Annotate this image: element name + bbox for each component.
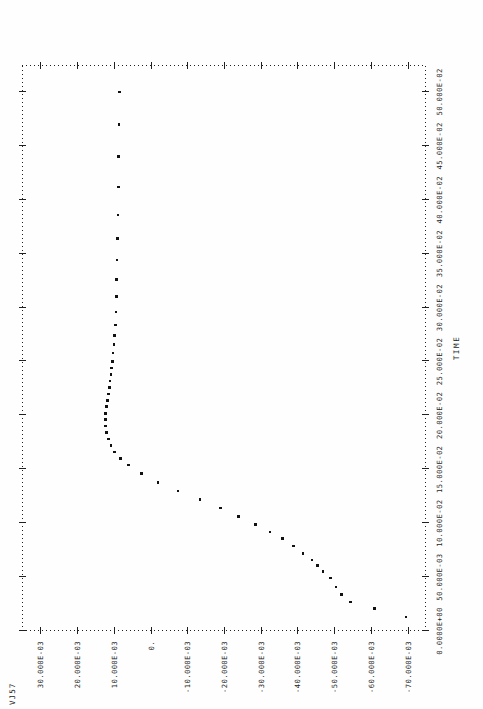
data-point [113, 343, 116, 346]
data-point [112, 352, 115, 355]
data-point [140, 472, 143, 475]
y-tick-label: -60.000E-03 [366, 641, 375, 709]
data-point [117, 214, 120, 217]
data-point [316, 564, 319, 567]
y-tick-label: -30.000E-03 [256, 641, 265, 709]
data-point [115, 296, 118, 299]
data-point [115, 311, 118, 314]
data-point [340, 593, 343, 596]
y-tick-label: 0. [146, 641, 155, 709]
x-axis-title: TIME [452, 336, 461, 361]
data-point [199, 498, 202, 501]
data-point [104, 418, 107, 421]
y-tick-label: 30.000E-03 [36, 641, 45, 709]
x-tick-label: 25.000E-02 [435, 338, 444, 385]
x-tick-label: 50.000E-02 [435, 68, 444, 115]
x-tick-label: 0.0000E+00 [435, 607, 444, 654]
y-tick-label: -10.000E-03 [183, 641, 192, 709]
plot-title: VJ57 [8, 683, 17, 705]
data-point [116, 237, 119, 240]
data-point [105, 431, 108, 434]
data-point [107, 393, 110, 396]
data-point [106, 399, 109, 402]
data-point [110, 367, 113, 370]
scatter-data-layer [22, 65, 426, 631]
x-tick-label: 50.000E-03 [435, 553, 444, 600]
data-point [292, 545, 295, 548]
y-tick-label: -40.000E-03 [293, 641, 302, 709]
y-tick-label: -20.000E-03 [220, 641, 229, 709]
x-tick-label: 20.000E-02 [435, 392, 444, 439]
y-tick-label: 10.000E-03 [109, 641, 118, 709]
data-point [322, 570, 325, 573]
data-point [116, 259, 119, 262]
data-point [157, 481, 160, 484]
x-tick-label: 15.000E-02 [435, 446, 444, 493]
data-point [113, 334, 116, 337]
data-point [115, 278, 118, 281]
data-point [114, 324, 117, 327]
x-tick-label: 10.000E-02 [435, 500, 444, 547]
data-point [110, 444, 113, 447]
data-point [117, 155, 120, 158]
data-point [111, 360, 114, 363]
data-point [108, 386, 111, 389]
data-point [109, 380, 112, 383]
data-point [281, 537, 284, 540]
data-point [349, 601, 352, 604]
data-point [311, 559, 314, 562]
x-tick-label: 30.000E-02 [435, 284, 444, 331]
data-point [254, 523, 257, 526]
plot-frame [22, 65, 426, 631]
y-tick-label: -50.000E-03 [330, 641, 339, 709]
rotated-plot-canvas: 0.0000E+0050.000E-0310.000E-0215.000E-02… [0, 0, 483, 709]
data-point [177, 490, 180, 493]
plot-page: 0.0000E+0050.000E-0310.000E-0215.000E-02… [0, 0, 483, 709]
x-tick-label: 35.000E-02 [435, 230, 444, 277]
data-point [405, 616, 408, 619]
data-point [117, 186, 120, 189]
data-point [104, 412, 107, 415]
data-point [104, 425, 107, 428]
data-point [118, 123, 121, 126]
x-tick-label: 40.000E-02 [435, 176, 444, 223]
data-point [107, 438, 110, 441]
data-point [118, 91, 121, 94]
data-point [119, 457, 122, 460]
y-tick-label: -70.000E-03 [403, 641, 412, 709]
x-tick-label: 45.000E-02 [435, 122, 444, 169]
data-point [335, 586, 338, 589]
data-point [373, 607, 376, 610]
data-point [237, 515, 240, 518]
data-point [302, 552, 305, 555]
data-point [329, 577, 332, 580]
data-point [110, 373, 113, 376]
data-point [127, 464, 130, 467]
y-tick-label: 20.000E-03 [73, 641, 82, 709]
data-point [269, 531, 272, 534]
data-point [113, 451, 116, 454]
data-point [219, 507, 222, 510]
data-point [105, 405, 108, 408]
